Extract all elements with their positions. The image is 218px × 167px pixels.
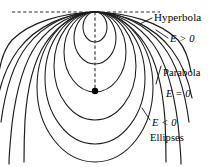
label-energy-positive: E > 0 bbox=[170, 34, 195, 45]
label-energy-negative: E < 0 bbox=[152, 118, 177, 129]
focus-dot bbox=[92, 88, 98, 94]
label-energy-zero: E = 0 bbox=[166, 89, 191, 100]
label-ellipses: Ellipses bbox=[150, 133, 184, 144]
conic-orbits-figure: Hyperbola E > 0 Parabola E = 0 E < 0 Ell… bbox=[0, 0, 218, 167]
label-parabola: Parabola bbox=[163, 68, 201, 79]
label-hyperbola: Hyperbola bbox=[154, 12, 201, 23]
hyperbola-curve bbox=[95, 12, 192, 98]
hyperbola-curve bbox=[0, 12, 95, 72]
figure-canvas bbox=[0, 0, 218, 167]
